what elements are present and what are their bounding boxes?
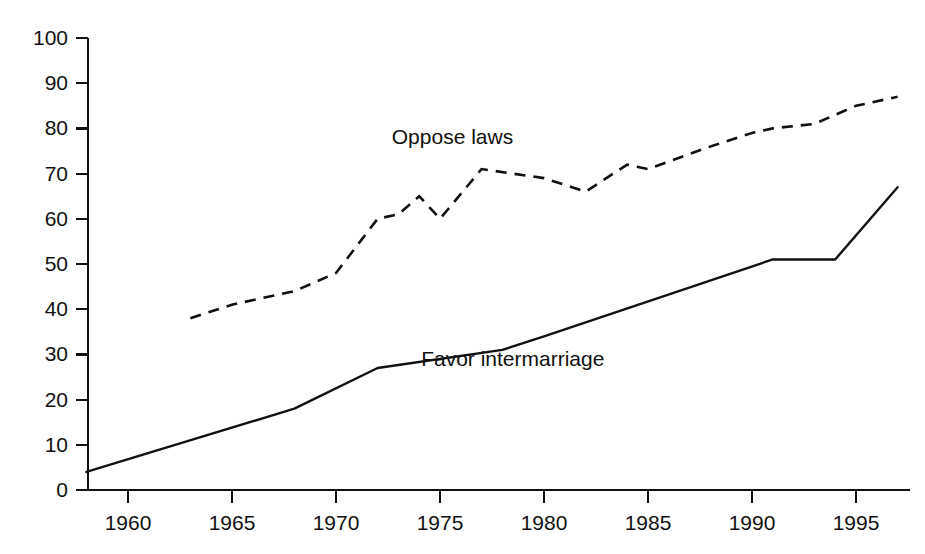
y-axis-ticks: 0102030405060708090100 [33, 26, 88, 501]
series-line-favor-intermarriage [86, 187, 897, 472]
x-tick-label: 1995 [833, 511, 880, 534]
y-tick-label: 80 [45, 116, 68, 139]
x-tick-label: 1980 [521, 511, 568, 534]
y-tick-label: 10 [45, 433, 68, 456]
series-line-oppose-laws [190, 97, 897, 318]
y-tick-label: 70 [45, 162, 68, 185]
y-tick-label: 100 [33, 26, 68, 49]
x-tick-label: 1990 [729, 511, 776, 534]
y-tick-label: 90 [45, 71, 68, 94]
axes [88, 38, 910, 490]
x-tick-label: 1960 [105, 511, 152, 534]
line-chart: 0102030405060708090100 19601965197019751… [0, 0, 925, 554]
y-tick-label: 20 [45, 388, 68, 411]
x-tick-label: 1970 [313, 511, 360, 534]
x-axis-ticks: 19601965197019751980198519901995 [105, 490, 880, 534]
chart-container: 0102030405060708090100 19601965197019751… [0, 0, 925, 554]
y-tick-label: 50 [45, 252, 68, 275]
data-series-group [86, 97, 897, 472]
y-tick-label: 60 [45, 207, 68, 230]
y-tick-label: 40 [45, 297, 68, 320]
series-label-oppose-laws: Oppose laws [392, 125, 513, 148]
x-tick-label: 1985 [625, 511, 672, 534]
x-tick-label: 1975 [417, 511, 464, 534]
y-tick-label: 0 [56, 478, 68, 501]
y-tick-label: 30 [45, 342, 68, 365]
series-label-favor-intermarriage: Favor intermarriage [421, 347, 604, 370]
x-tick-label: 1965 [209, 511, 256, 534]
